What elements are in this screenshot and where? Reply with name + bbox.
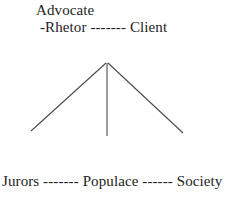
right-leg-line xyxy=(108,63,183,133)
top-relation-row: -Rhetor ------- Client xyxy=(40,19,167,36)
label-rhetor: -Rhetor xyxy=(40,19,87,36)
bottom-relation-row: Jurors ------- Populace ------ Society xyxy=(2,173,222,190)
apex-label-advocate: Advocate xyxy=(36,2,94,19)
label-client: Client xyxy=(130,19,167,36)
label-populace: Populace xyxy=(83,173,139,190)
connector-jurors-populace: ------- xyxy=(39,173,82,190)
connector-populace-society: ------ xyxy=(138,173,176,190)
label-jurors: Jurors xyxy=(2,173,39,190)
diagram-canvas: Advocate -Rhetor ------- Client Jurors -… xyxy=(0,0,237,199)
connector-rhetor-client: ------- xyxy=(87,19,130,36)
label-society: Society xyxy=(177,173,223,190)
left-leg-line xyxy=(31,63,106,131)
